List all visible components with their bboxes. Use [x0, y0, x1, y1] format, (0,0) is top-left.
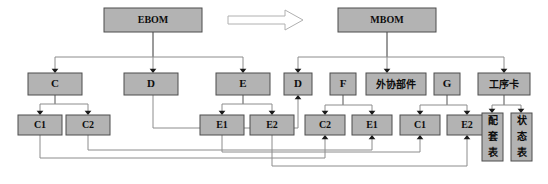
node-e_e1[interactable]: E1 — [200, 115, 244, 135]
node-m_ptb[interactable]: 配套表 — [482, 113, 503, 161]
diagram-canvas: EBOMMBOMCDEDF外协部件G工序卡C1C2E1E2C2E1C1E2配套表… — [0, 0, 548, 184]
edge-c-c2-arrowhead-icon — [85, 111, 92, 115]
edge-c-c1-line — [40, 95, 55, 112]
node-m_e1[interactable]: E1 — [352, 115, 392, 135]
node-m_c1-label: C1 — [414, 119, 426, 130]
node-m_c2-label: C2 — [319, 119, 331, 130]
nodes-layer: EBOMMBOMCDEDF外协部件G工序卡C1C2E1E2C2E1C1E2配套表… — [18, 8, 532, 161]
edge-gxk-ztb-arrowhead-icon — [518, 109, 525, 113]
node-e_d-label: D — [147, 77, 155, 89]
edge-f-c2 — [322, 95, 343, 115]
edge-mbom-d — [295, 32, 387, 73]
edge-mbom-d-arrowhead-icon — [295, 69, 302, 73]
edge-f-c2-line — [325, 95, 343, 112]
edge-e-e2 — [243, 95, 275, 115]
edge-e-e1 — [219, 95, 243, 115]
node-m_c1[interactable]: C1 — [400, 115, 440, 135]
node-m_gxk-label: 工序卡 — [489, 78, 519, 90]
node-m_ztb-label-char: 态 — [517, 130, 527, 142]
node-m_e1-label: E1 — [366, 119, 378, 130]
node-m_ztb-label-char: 表 — [516, 146, 528, 158]
edge-ec1-mc2 — [40, 135, 328, 158]
node-m_d[interactable]: D — [284, 73, 312, 95]
edge-ec2-me1-line — [88, 135, 372, 150]
edge-gxk-ptb-line — [492, 95, 504, 110]
edge-e-e2-line — [243, 95, 272, 112]
edge-mbom-wx-arrowhead-icon — [384, 69, 391, 73]
node-mbom[interactable]: MBOM — [338, 8, 436, 32]
edge-ebom-e-arrowhead-icon — [240, 69, 247, 73]
edge-g-c1-arrowhead-icon — [417, 111, 424, 115]
edge-f-e1-arrowhead-icon — [369, 111, 376, 115]
edge-gxk-ptb — [489, 95, 504, 113]
edge-ebom-c-line — [55, 32, 153, 70]
edges-layer — [37, 32, 525, 166]
edge-ec2-me1 — [88, 135, 375, 150]
node-mbom-label: MBOM — [370, 14, 404, 25]
transform-arrow-icon — [228, 10, 303, 30]
edge-c-c2 — [55, 95, 91, 115]
node-ebom[interactable]: EBOM — [104, 8, 202, 32]
edge-ec1-mc2-line — [40, 135, 325, 158]
edge-mbom-gxk — [387, 32, 507, 73]
node-m_g[interactable]: G — [434, 73, 460, 95]
edge-f-c2-arrowhead-icon — [322, 111, 329, 115]
node-e_e1-label: E1 — [216, 119, 228, 130]
edge-f-e1-line — [343, 95, 372, 112]
edge-gxk-ptb-arrowhead-icon — [489, 109, 496, 113]
edge-ee1-mc1-line — [222, 135, 420, 152]
edge-gxk-ztb-line — [504, 95, 521, 110]
node-m_wx-label: 外协部件 — [375, 78, 416, 90]
node-m_ptb-label-char: 套 — [487, 130, 499, 142]
edge-ebom-c-arrowhead-icon — [52, 69, 59, 73]
bom-transformation-diagram: EBOMMBOMCDEDF外协部件G工序卡C1C2E1E2C2E1C1E2配套表… — [0, 0, 548, 184]
edge-ebom-e-line — [153, 32, 243, 70]
node-m_ztb[interactable]: 状态表 — [511, 113, 532, 161]
transform-arrow-layer — [228, 10, 303, 30]
node-e_e2[interactable]: E2 — [250, 115, 294, 135]
edge-ec1-mc2-arrowhead-icon — [322, 135, 329, 139]
node-e_c2[interactable]: C2 — [66, 115, 110, 135]
node-m_wx[interactable]: 外协部件 — [366, 73, 426, 95]
node-e_c[interactable]: C — [28, 73, 82, 95]
edge-e-e1-line — [222, 95, 243, 112]
node-m_e2[interactable]: E2 — [447, 115, 487, 135]
node-e_c1[interactable]: C1 — [18, 115, 62, 135]
edge-c-c1-arrowhead-icon — [37, 111, 44, 115]
node-e_e[interactable]: E — [216, 73, 270, 95]
node-m_gxk[interactable]: 工序卡 — [478, 73, 530, 95]
edge-ee1-mc1-arrowhead-icon — [417, 135, 424, 139]
node-m_e2-label: E2 — [461, 119, 473, 130]
node-m_d-label: D — [294, 77, 302, 89]
edge-g-e2-line — [447, 95, 467, 112]
edge-c-c2-line — [55, 95, 88, 112]
edge-mbom-gxk-arrowhead-icon — [501, 69, 508, 73]
node-e_e-label: E — [239, 77, 246, 89]
edge-ee1-mc1 — [222, 135, 423, 152]
node-m_ztb-label-char: 状 — [517, 114, 528, 126]
edge-c-c1 — [37, 95, 55, 115]
node-m_f[interactable]: F — [330, 73, 356, 95]
edge-g-e2-arrowhead-icon — [464, 111, 471, 115]
edge-e-e2-arrowhead-icon — [269, 111, 276, 115]
node-m_ptb-label-char: 配 — [488, 115, 498, 126]
edge-gxk-ztb — [504, 95, 524, 113]
node-e_e2-label: E2 — [266, 119, 278, 130]
edge-ec2-me1-arrowhead-icon — [369, 135, 376, 139]
node-e_c1-label: C1 — [34, 119, 46, 130]
node-m_c2[interactable]: C2 — [305, 115, 345, 135]
edge-ebom-d-arrowhead-icon — [150, 69, 157, 73]
edge-e-e1-arrowhead-icon — [219, 111, 226, 115]
node-ebom-label: EBOM — [138, 14, 169, 25]
node-e_d[interactable]: D — [124, 73, 178, 95]
node-m_f-label: F — [340, 77, 347, 89]
node-m_g-label: G — [443, 77, 452, 89]
node-e_c-label: C — [51, 77, 59, 89]
edge-mbom-d-line — [298, 32, 387, 70]
edge-f-e1 — [343, 95, 375, 115]
node-e_c2-label: C2 — [82, 119, 94, 130]
node-m_ptb-label-char: 表 — [487, 146, 499, 158]
edge-ed-md-arrowhead-icon — [295, 95, 302, 99]
edge-g-c1-line — [420, 95, 447, 112]
edge-mbom-gxk-line — [387, 32, 504, 70]
